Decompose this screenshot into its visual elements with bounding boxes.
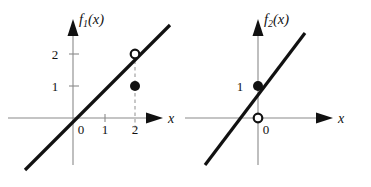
function-label-argument: (x) <box>273 11 289 28</box>
filled-dot-marker <box>130 81 140 91</box>
function-label-f2: f2(x) <box>264 11 289 29</box>
graph-line-f1 <box>25 25 170 170</box>
x-tick-label-0: 0 <box>78 122 85 137</box>
x-axis-arrowhead <box>316 113 333 124</box>
origin-label-0: 0 <box>263 122 270 137</box>
x-tick-label-2: 2 <box>132 122 139 137</box>
graph-panel-f2: f2(x) x 1 0 <box>185 0 371 187</box>
graph-line-f2 <box>205 33 305 165</box>
function-label-f1: f1(x) <box>79 11 104 29</box>
x-axis-label: x <box>337 111 345 126</box>
graph-canvas-f2: f2(x) x 1 0 <box>185 0 371 187</box>
y-axis-arrowhead <box>253 19 264 36</box>
y-tick-label-2: 2 <box>52 47 59 62</box>
graph-panel-f1: f1(x) x 2 1 0 1 2 <box>0 0 186 187</box>
graph-canvas-f1: f1(x) x 2 1 0 1 2 <box>0 0 186 187</box>
filled-dot-marker <box>253 81 263 91</box>
function-graph-figure: f1(x) x 2 1 0 1 2 f2(x) <box>0 0 371 187</box>
y-tick-label-1: 1 <box>52 79 59 94</box>
open-circle-marker <box>131 50 140 59</box>
y-axis-arrowhead <box>68 19 79 36</box>
open-circle-marker <box>254 114 263 123</box>
x-tick-label-1: 1 <box>102 122 109 137</box>
x-axis-label: x <box>167 111 175 126</box>
x-axis-arrowhead <box>146 113 163 124</box>
function-label-argument: (x) <box>88 11 104 28</box>
y-tick-label-1: 1 <box>237 79 244 94</box>
